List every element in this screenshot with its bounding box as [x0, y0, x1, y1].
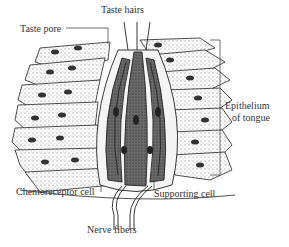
label-taste-pore: Taste pore: [20, 23, 61, 34]
label-chemoreceptor-cell: Chemoreceptor cell: [16, 186, 95, 197]
taste-bud: [97, 50, 178, 192]
taste-bud-diagram: Taste hairs Taste pore Epithelium of ton…: [0, 0, 289, 247]
epithelium-left: [12, 42, 112, 192]
label-epithelium-line1: Epithelium: [225, 100, 269, 111]
label-epithelium-line2: of tongue: [232, 112, 270, 123]
label-supporting-cell: Supporting cell: [154, 188, 215, 199]
taste-bud-illustration: [0, 0, 289, 247]
label-nerve-fibers: Nerve fibers: [87, 224, 137, 235]
label-taste-hairs: Taste hairs: [101, 4, 144, 15]
